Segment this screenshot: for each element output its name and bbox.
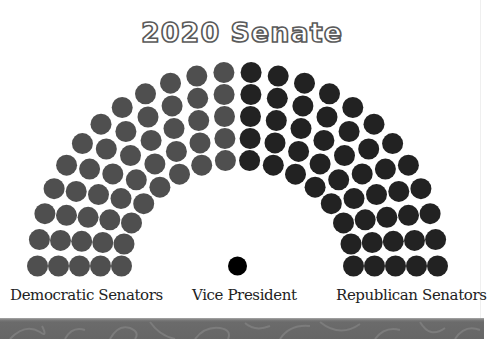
republican-seat [328,169,349,190]
republican-seat [375,159,396,180]
republican-seat [355,209,376,230]
republican-seat [266,110,287,131]
republican-seat [265,132,286,153]
democratic-seat [186,66,207,87]
democratic-seat [187,88,208,109]
democratic-seat [78,207,99,228]
republican-label: Republican Senators [336,286,487,304]
democratic-seat [213,62,234,83]
republican-seat [334,145,355,166]
republican-seat [288,141,309,162]
democratic-seat [141,130,162,151]
democratic-seat [29,229,50,250]
republican-seat [364,114,385,135]
vice-president-seat [228,257,247,276]
republican-seat [388,181,409,202]
republican-seat [333,212,354,233]
republican-seat [420,203,441,224]
republican-seat [425,229,446,250]
democratic-seat [34,203,55,224]
republican-seat [364,256,385,277]
republican-seat [341,234,362,255]
republican-seat [239,150,260,171]
democratic-seat [27,256,48,277]
republican-seat [342,97,363,118]
democratic-seat [191,155,212,176]
democratic-seat [120,145,141,166]
republican-seat [321,193,342,214]
footer-band [0,318,484,339]
republican-seat [398,155,419,176]
democratic-seat [96,139,117,160]
republican-seat [339,121,360,142]
democratic-seat [166,141,187,162]
democratic-seat [111,188,132,209]
parliament-seats [0,0,484,310]
democratic-seat [214,128,235,149]
republican-seat [319,83,340,104]
republican-seat [291,118,312,139]
republican-seat [292,95,313,116]
republican-seat [305,177,326,198]
democratic-seat [164,118,185,139]
republican-seat [240,84,261,105]
republican-seat [385,256,406,277]
democratic-seat [48,256,69,277]
republican-seat [241,62,262,83]
democratic-seat [111,256,132,277]
republican-seat [382,133,403,154]
republican-seat [358,139,379,160]
democratic-label: Democratic Senators [10,286,163,304]
democratic-seat [188,110,209,131]
republican-seat [267,88,288,109]
democratic-seat [121,212,142,233]
republican-seat [427,256,448,277]
democratic-seat [56,155,77,176]
democratic-seat [149,177,170,198]
republican-seat [383,231,404,252]
democratic-seat [114,234,135,255]
republican-seat [344,188,365,209]
republican-seat [310,153,331,174]
democratic-seat [50,230,71,251]
republican-seat [240,128,261,149]
democratic-seat [102,163,123,184]
republican-seat [406,256,427,277]
democratic-seat [169,164,190,185]
democratic-seat [72,133,93,154]
republican-seat [404,230,425,251]
democratic-seat [126,169,147,190]
democratic-seat [90,256,111,277]
democratic-seat [162,95,183,116]
democratic-seat [214,106,235,127]
democratic-seat [88,184,109,205]
democratic-seat [160,73,181,94]
republican-seat [268,66,289,87]
democratic-seat [71,231,92,252]
democratic-seat [138,107,159,128]
democratic-seat [190,132,211,153]
republican-seat [294,73,315,94]
democratic-seat [92,232,113,253]
democratic-seat [144,153,165,174]
republican-seat [398,205,419,226]
swirl-pattern-icon [0,318,484,339]
republican-seat [313,130,334,151]
republican-seat [352,163,373,184]
vice-president-label: Vice President [192,286,297,304]
democratic-seat [135,83,156,104]
republican-seat [362,232,383,253]
democratic-seat [214,84,235,105]
republican-seat [376,207,397,228]
republican-seat [285,164,306,185]
democratic-seat [112,97,133,118]
democratic-seat [69,256,90,277]
republican-seat [343,256,364,277]
democratic-seat [56,205,77,226]
democratic-seat [99,209,120,230]
democratic-seat [91,114,112,135]
republican-seat [317,107,338,128]
republican-seat [240,106,261,127]
democratic-seat [215,150,236,171]
democratic-seat [133,193,154,214]
